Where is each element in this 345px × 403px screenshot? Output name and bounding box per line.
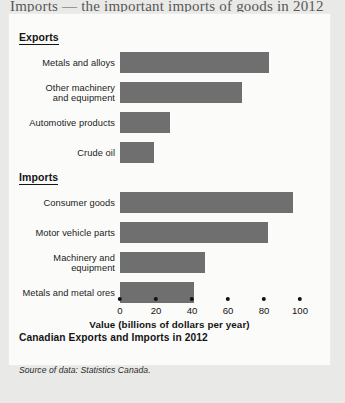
x-tick-dot bbox=[226, 297, 230, 301]
bar-row: Motor vehicle parts bbox=[9, 220, 330, 246]
x-tick-dot bbox=[298, 297, 302, 301]
x-tick-dot bbox=[262, 297, 266, 301]
bar-label: Machinery andequipment bbox=[9, 253, 115, 274]
bar-label: Crude oil bbox=[9, 148, 115, 159]
bar bbox=[120, 82, 242, 103]
bar bbox=[120, 112, 170, 133]
bar-label: Motor vehicle parts bbox=[9, 228, 115, 239]
x-tick-dot bbox=[190, 297, 194, 301]
bar bbox=[120, 52, 269, 73]
figure-card: ExportsMetals and alloysOther machinerya… bbox=[9, 14, 330, 365]
x-tick-label: 0 bbox=[117, 305, 122, 316]
x-tick-label: 60 bbox=[223, 305, 234, 316]
bar-chart: ExportsMetals and alloysOther machinerya… bbox=[9, 14, 330, 304]
bar bbox=[120, 142, 154, 163]
x-tick-label: 100 bbox=[292, 305, 308, 316]
bar-label: Metals and alloys bbox=[9, 58, 115, 69]
bar-row: Consumer goods bbox=[9, 190, 330, 216]
group-header-imports: Imports bbox=[19, 172, 58, 185]
x-axis-title: Value (billions of dollars per year) bbox=[9, 319, 330, 330]
bar bbox=[120, 192, 293, 213]
bar-row: Crude oil bbox=[9, 140, 330, 166]
x-axis: Value (billions of dollars per year) 020… bbox=[9, 297, 330, 357]
x-tick-label: 20 bbox=[151, 305, 162, 316]
bar-label: Consumer goods bbox=[9, 198, 115, 209]
bar-label: Automotive products bbox=[9, 118, 115, 129]
group-header-exports: Exports bbox=[19, 32, 59, 45]
bar-row: Machinery andequipment bbox=[9, 250, 330, 276]
figure-source: Source of data: Statistics Canada. bbox=[19, 365, 151, 375]
bar-row: Other machineryand equipment bbox=[9, 80, 330, 106]
figure-caption: Canadian Exports and Imports in 2012 bbox=[19, 332, 208, 343]
x-tick-dot bbox=[154, 297, 158, 301]
bar-row: Metals and alloys bbox=[9, 50, 330, 76]
bar bbox=[120, 222, 268, 243]
bar-row: Automotive products bbox=[9, 110, 330, 136]
x-tick-label: 40 bbox=[187, 305, 198, 316]
x-tick-label: 80 bbox=[259, 305, 270, 316]
bar bbox=[120, 252, 205, 273]
bar-label: Other machineryand equipment bbox=[9, 83, 115, 104]
x-tick-dot bbox=[118, 297, 122, 301]
page-bleed-text: Imports — the important imports of goods… bbox=[10, 0, 340, 12]
